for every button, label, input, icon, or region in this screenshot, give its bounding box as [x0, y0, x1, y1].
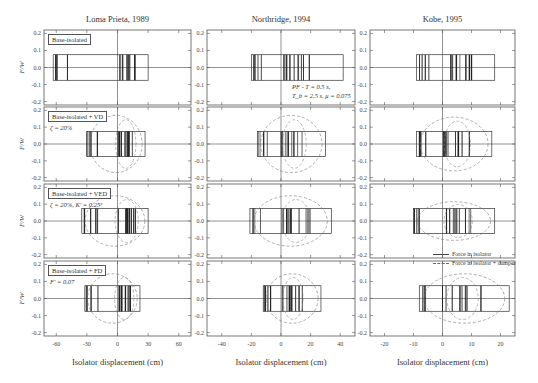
panel-2-2	[370, 184, 515, 258]
row-param-fd: F' = 0.07	[50, 278, 74, 285]
svg-text:-0.1: -0.1	[195, 158, 205, 164]
svg-text:0.0: 0.0	[34, 65, 42, 71]
svg-text:0.0: 0.0	[360, 296, 368, 302]
svg-text:0.2: 0.2	[34, 107, 42, 113]
svg-text:0: 0	[116, 341, 119, 347]
row-param-ved: ζ = 20%, K' = 0.25ᵖ	[50, 201, 102, 208]
svg-text:-0.2: -0.2	[32, 252, 42, 258]
svg-text:-0.1: -0.1	[195, 82, 205, 88]
legend: Force in isolator Force in isolator + da…	[433, 250, 516, 268]
annotation-line-1: PF - T = 0.5 s,	[292, 83, 330, 90]
svg-text:-0.2: -0.2	[32, 330, 42, 336]
svg-text:0.0: 0.0	[360, 141, 368, 147]
svg-text:-0.2: -0.2	[358, 252, 368, 258]
svg-text:-0.1: -0.1	[195, 313, 205, 319]
svg-text:-0.1: -0.1	[358, 82, 368, 88]
svg-text:-0.2: -0.2	[32, 175, 42, 181]
row-label-fd: Base-isolated + FD	[48, 265, 106, 276]
svg-text:0.0: 0.0	[360, 65, 368, 71]
svg-text:-0.1: -0.1	[32, 313, 42, 319]
svg-text:0.2: 0.2	[360, 261, 368, 267]
y-axis-label: F/W	[18, 291, 26, 305]
svg-text:0.2: 0.2	[197, 184, 205, 190]
svg-text:0.1: 0.1	[197, 278, 205, 284]
row-param-vd: ζ = 20%	[50, 124, 72, 131]
svg-text:-0.2: -0.2	[32, 99, 42, 105]
svg-text:-0.1: -0.1	[358, 235, 368, 241]
svg-text:0.2: 0.2	[197, 261, 205, 267]
x-axis-label-northridge: Isolator displacement (cm)	[207, 357, 355, 367]
svg-text:-0.2: -0.2	[195, 99, 205, 105]
svg-text:0.1: 0.1	[360, 201, 368, 207]
svg-text:-60: -60	[52, 341, 60, 347]
svg-text:-10: -10	[410, 341, 418, 347]
x-axis-label-loma-prieta: Isolator displacement (cm)	[44, 357, 191, 367]
panel-1-2	[370, 107, 515, 181]
panel-1-1	[207, 107, 355, 181]
svg-text:0.0: 0.0	[34, 141, 42, 147]
svg-text:60: 60	[176, 341, 182, 347]
svg-text:-0.1: -0.1	[195, 235, 205, 241]
svg-text:0.0: 0.0	[197, 141, 205, 147]
svg-text:0.0: 0.0	[34, 296, 42, 302]
x-axis-label-kobe: Isolator displacement (cm)	[370, 357, 515, 367]
svg-text:-0.2: -0.2	[358, 330, 368, 336]
svg-text:0.1: 0.1	[360, 47, 368, 53]
svg-text:30: 30	[145, 341, 151, 347]
svg-text:0.2: 0.2	[360, 107, 368, 113]
panel-0-2	[370, 30, 515, 105]
svg-text:0: 0	[280, 341, 283, 347]
row-label-ved: Base-isolated + VED	[48, 188, 111, 199]
y-axis-label: F/W	[18, 214, 26, 228]
svg-text:0.2: 0.2	[197, 107, 205, 113]
column-title-northridge: Northridge, 1994	[207, 14, 355, 24]
svg-text:0.1: 0.1	[34, 124, 42, 130]
svg-text:-0.1: -0.1	[32, 82, 42, 88]
svg-text:0.0: 0.0	[197, 218, 205, 224]
svg-text:0.2: 0.2	[197, 30, 205, 36]
svg-text:0.0: 0.0	[197, 296, 205, 302]
legend-item-isolator: Force in isolator	[433, 250, 516, 259]
svg-text:-0.1: -0.1	[32, 158, 42, 164]
svg-text:-0.1: -0.1	[32, 235, 42, 241]
row-label-vd: Base-isolated + VD	[48, 111, 107, 122]
svg-text:0.1: 0.1	[34, 47, 42, 53]
legend-item-isolator-damper: Force in isolator + damper	[433, 259, 516, 268]
svg-text:0.2: 0.2	[360, 184, 368, 190]
svg-text:0.1: 0.1	[34, 278, 42, 284]
svg-text:0.2: 0.2	[34, 261, 42, 267]
svg-text:-0.2: -0.2	[195, 330, 205, 336]
y-axis-label: F/W	[18, 60, 26, 74]
column-title-loma-prieta: Loma Prieta, 1989	[44, 14, 191, 24]
svg-text:20: 20	[308, 341, 314, 347]
svg-text:-0.2: -0.2	[195, 175, 205, 181]
svg-text:0.0: 0.0	[34, 218, 42, 224]
svg-text:-20: -20	[381, 341, 389, 347]
svg-text:-0.2: -0.2	[195, 252, 205, 258]
svg-text:0.1: 0.1	[360, 278, 368, 284]
svg-text:0.2: 0.2	[360, 30, 368, 36]
panel-3-1	[207, 261, 355, 336]
svg-text:0.0: 0.0	[197, 65, 205, 71]
svg-text:-0.1: -0.1	[358, 158, 368, 164]
svg-text:0: 0	[441, 341, 444, 347]
svg-text:-0.2: -0.2	[358, 99, 368, 105]
svg-text:-20: -20	[247, 341, 255, 347]
svg-text:10: 10	[469, 341, 475, 347]
svg-text:0.2: 0.2	[34, 30, 42, 36]
svg-text:-40: -40	[218, 341, 226, 347]
svg-text:0.2: 0.2	[34, 184, 42, 190]
svg-text:0.1: 0.1	[34, 201, 42, 207]
svg-text:-0.1: -0.1	[358, 313, 368, 319]
row-label-base-isolated: Base-isolated	[48, 34, 91, 45]
svg-text:20: 20	[498, 341, 504, 347]
y-axis-label: F/W	[18, 137, 26, 151]
svg-text:-0.2: -0.2	[358, 175, 368, 181]
svg-text:0.1: 0.1	[197, 47, 205, 53]
annotation-line-2: T_b = 2.5 s, μ = 0.075	[292, 92, 351, 99]
svg-text:0.1: 0.1	[360, 124, 368, 130]
svg-text:-30: -30	[83, 341, 91, 347]
svg-text:0.0: 0.0	[360, 218, 368, 224]
panel-3-2	[370, 261, 515, 336]
column-title-kobe: Kobe, 1995	[370, 14, 515, 24]
